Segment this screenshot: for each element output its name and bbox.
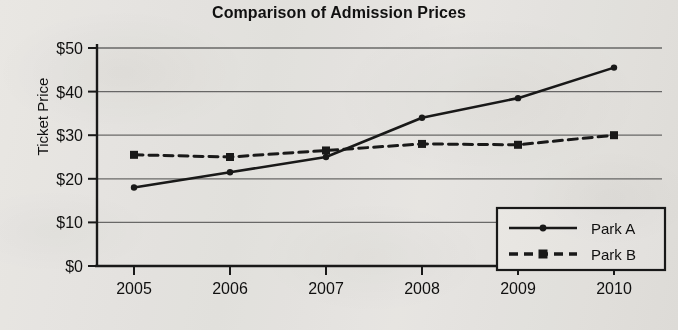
y-axis-tick-label: $40 (56, 84, 83, 101)
x-axis-tick-label: 2009 (500, 280, 536, 297)
data-point-marker (130, 151, 138, 159)
y-axis-tick-label: $20 (56, 171, 83, 188)
series-line-park-a (134, 68, 614, 188)
y-axis-tick-label: $50 (56, 40, 83, 57)
x-axis-tick-labels: 200520062007200820092010 (116, 280, 632, 297)
line-chart-plot: $0$10$20$30$40$50 2005200620072008200920… (0, 0, 678, 330)
data-point-marker (514, 141, 522, 149)
data-point-marker (227, 169, 233, 175)
chart-legend[interactable]: Park APark B (497, 208, 665, 270)
x-axis-tick-label: 2010 (596, 280, 632, 297)
data-point-marker (515, 95, 521, 101)
y-axis-title: Ticket Price (34, 47, 51, 187)
data-series (130, 64, 618, 190)
chart-title: Comparison of Admission Prices (0, 4, 678, 22)
legend-box (497, 208, 665, 270)
data-point-marker (131, 184, 137, 190)
y-axis-tick-labels: $0$10$20$30$40$50 (56, 40, 83, 275)
data-point-marker (418, 140, 426, 148)
data-point-marker (226, 153, 234, 161)
x-axis-tick-label: 2006 (212, 280, 248, 297)
x-axis-tick-label: 2008 (404, 280, 440, 297)
data-point-marker (610, 131, 618, 139)
data-point-marker (323, 154, 329, 160)
y-axis-tick-label: $10 (56, 214, 83, 231)
legend-marker (540, 225, 547, 232)
x-axis-tick-label: 2007 (308, 280, 344, 297)
y-axis-tick-label: $0 (65, 258, 83, 275)
data-point-marker (611, 64, 617, 70)
data-point-marker (322, 146, 330, 154)
legend-label: Park B (591, 246, 636, 263)
x-axis-tick-label: 2005 (116, 280, 152, 297)
y-axis-tick-label: $30 (56, 127, 83, 144)
legend-label: Park A (591, 220, 635, 237)
legend-marker (539, 250, 548, 259)
data-point-marker (419, 115, 425, 121)
